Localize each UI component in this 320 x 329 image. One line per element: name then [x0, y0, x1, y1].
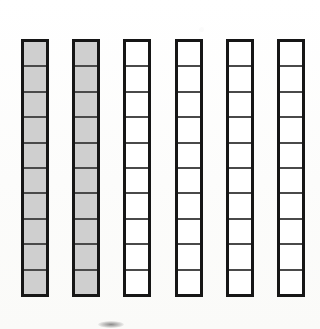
bar-segment — [126, 169, 148, 194]
bar-segment — [280, 93, 302, 118]
bar-segment — [24, 67, 46, 92]
bar-segment — [178, 194, 200, 219]
bar-segment — [24, 169, 46, 194]
bar-segment — [126, 42, 148, 67]
bar-segment — [24, 93, 46, 118]
bar-segment — [178, 220, 200, 245]
bar-segment — [178, 118, 200, 143]
bar-segment — [280, 67, 302, 92]
bar-segment — [75, 93, 97, 118]
bar-segment — [178, 245, 200, 270]
bar-segment — [75, 245, 97, 270]
bar-segment — [178, 67, 200, 92]
bar-segment — [178, 42, 200, 67]
fraction-bar-3 — [123, 39, 151, 297]
fraction-bar-2 — [72, 39, 100, 297]
bar-segment — [126, 67, 148, 92]
bar-segment — [126, 194, 148, 219]
bar-segment — [280, 245, 302, 270]
diagram-canvas — [0, 0, 320, 329]
bar-segment — [229, 194, 251, 219]
bar-segment — [178, 169, 200, 194]
bar-segment — [280, 169, 302, 194]
bar-segment — [24, 144, 46, 169]
bar-segment — [75, 169, 97, 194]
bar-segment — [229, 169, 251, 194]
fraction-bar-4 — [175, 39, 203, 297]
bar-segment — [24, 118, 46, 143]
bar-segment — [178, 93, 200, 118]
bar-segment — [229, 93, 251, 118]
bar-segment — [75, 42, 97, 67]
bar-segment — [280, 42, 302, 67]
bar-segment — [126, 144, 148, 169]
bar-segment — [229, 220, 251, 245]
bar-segment — [280, 194, 302, 219]
bar-segment — [229, 245, 251, 270]
bar-segment — [126, 118, 148, 143]
bar-segment — [24, 245, 46, 270]
fraction-bar-1 — [21, 39, 49, 297]
bar-segment — [280, 271, 302, 294]
bar-segment — [24, 42, 46, 67]
bar-segment — [126, 245, 148, 270]
fraction-bar-6 — [277, 39, 305, 297]
bar-segment — [280, 144, 302, 169]
fraction-bar-5 — [226, 39, 254, 297]
bar-segment — [229, 144, 251, 169]
ink-smudge-artifact — [98, 321, 124, 328]
bar-segment — [229, 118, 251, 143]
bar-segment — [126, 271, 148, 294]
bar-segment — [178, 144, 200, 169]
bar-segment — [75, 220, 97, 245]
bar-segment — [280, 118, 302, 143]
bar-segment — [24, 194, 46, 219]
bar-segment — [229, 271, 251, 294]
bar-segment — [75, 271, 97, 294]
bar-segment — [229, 42, 251, 67]
bar-segment — [75, 67, 97, 92]
bar-segment — [126, 220, 148, 245]
bar-segment — [280, 220, 302, 245]
bar-segment — [178, 271, 200, 294]
bar-segment — [24, 220, 46, 245]
bar-segment — [75, 118, 97, 143]
bar-segment — [75, 144, 97, 169]
bar-segment — [24, 271, 46, 294]
bar-segment — [75, 194, 97, 219]
bar-segment — [126, 93, 148, 118]
bar-segment — [229, 67, 251, 92]
